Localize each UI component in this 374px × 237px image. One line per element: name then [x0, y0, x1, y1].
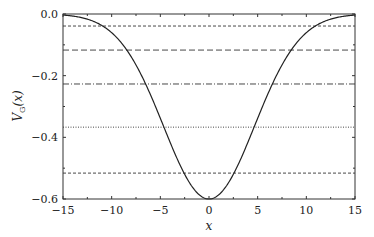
y-tick-label: −0.4 — [31, 131, 58, 144]
chart: −15−10−5051015 0.0−0.2−0.4−0.6 x VG(x) — [0, 0, 374, 237]
y-axis-label: VG(x) — [11, 90, 27, 122]
x-tick-label: 10 — [299, 204, 313, 217]
y-axis-ticks: 0.0−0.2−0.4−0.6 — [31, 8, 355, 206]
x-axis-ticks: −15−10−5051015 — [51, 14, 362, 217]
x-axis-label: x — [206, 219, 213, 233]
x-tick-label: 5 — [254, 204, 261, 217]
y-tick-label: −0.2 — [31, 70, 58, 83]
plot-frame — [63, 14, 355, 199]
svg-text:VG(x): VG(x) — [11, 90, 27, 122]
y-tick-label: 0.0 — [41, 8, 59, 21]
potential-curve — [63, 15, 355, 199]
energy-level-lines — [63, 26, 355, 173]
x-tick-label: −10 — [100, 204, 123, 217]
y-tick-label: −0.6 — [31, 193, 58, 206]
x-tick-label: 0 — [206, 204, 213, 217]
x-tick-label: 15 — [348, 204, 362, 217]
x-tick-label: −5 — [152, 204, 168, 217]
